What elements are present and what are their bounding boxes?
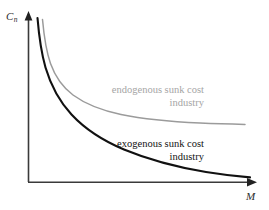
annotation-endogenous-sunk-cost: endogenous sunk cost industry bbox=[88, 83, 204, 109]
y-axis-label: Cn bbox=[6, 11, 17, 22]
x-axis-arrowhead bbox=[247, 178, 257, 186]
figure-container: Cn M endogenous sunk cost industry exoge… bbox=[0, 0, 269, 210]
annotation-endogenous-line-1: endogenous sunk cost bbox=[88, 83, 204, 96]
y-axis-arrowhead bbox=[25, 11, 33, 21]
annotation-exogenous-line-1: exogenous sunk cost bbox=[88, 137, 204, 150]
y-axis-label-main: C bbox=[6, 10, 13, 22]
annotation-exogenous-line-2: industry bbox=[88, 150, 204, 163]
y-axis-label-subscript: n bbox=[14, 15, 18, 24]
annotation-endogenous-line-2: industry bbox=[88, 96, 204, 109]
annotation-exogenous-sunk-cost: exogenous sunk cost industry bbox=[88, 137, 204, 163]
x-axis-label: M bbox=[246, 191, 255, 202]
